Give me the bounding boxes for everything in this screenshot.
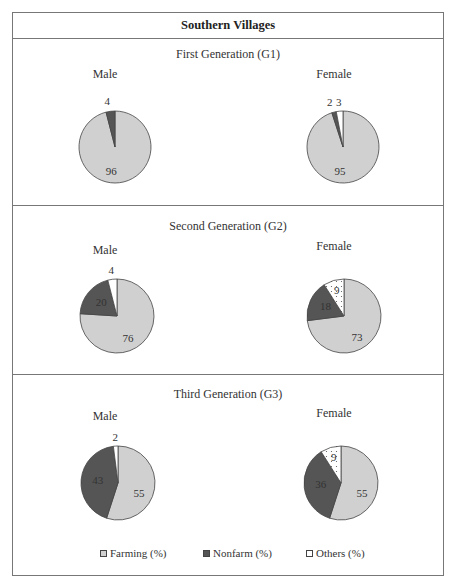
svg-text:9: 9 xyxy=(331,451,337,463)
pie-g3-female: 55369 xyxy=(0,0,453,583)
svg-text:36: 36 xyxy=(315,478,327,490)
svg-text:55: 55 xyxy=(357,487,369,499)
